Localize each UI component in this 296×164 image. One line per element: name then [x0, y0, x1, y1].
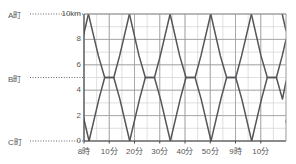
y-tick-label: 0 [0, 136, 81, 145]
y-tick-label: 10km [0, 9, 81, 18]
town-label-b: B町 [8, 73, 21, 84]
x-tick-label: 10分 [245, 145, 277, 156]
y-tick-label: 2 [0, 111, 81, 120]
y-tick-label: 8 [0, 34, 81, 43]
y-tick-label: 6 [0, 60, 81, 69]
distance-time-graph: A町 B町 C町 0246810km 8時10分20分30分40分50分9時10… [0, 0, 296, 164]
y-tick-label: 4 [0, 85, 81, 94]
